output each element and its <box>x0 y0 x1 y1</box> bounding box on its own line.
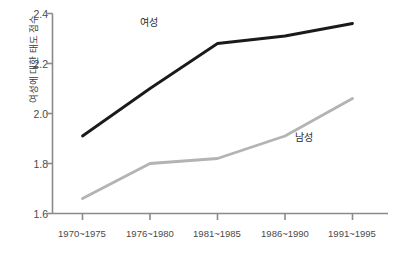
x-tick-label-1970-1975: 1970~1975 <box>58 228 106 239</box>
chart-plot-area <box>0 0 395 259</box>
x-tick-label-1981-1985: 1981~1985 <box>193 228 241 239</box>
x-tick-label-1986-1990: 1986~1990 <box>261 228 309 239</box>
chart-container: 여성에 대한 태도 점수 2.4 2.2 2.0 1.8 1.6 1970~19… <box>0 0 395 259</box>
series-annotation-men: 남성 <box>295 129 313 144</box>
x-tick-label-1991-1995: 1991~1995 <box>328 228 376 239</box>
series-annotation-women: 여성 <box>140 14 158 29</box>
x-tick-label-1976-1980: 1976~1980 <box>126 228 174 239</box>
series-line-men <box>83 24 353 137</box>
series-line-women <box>83 99 353 199</box>
